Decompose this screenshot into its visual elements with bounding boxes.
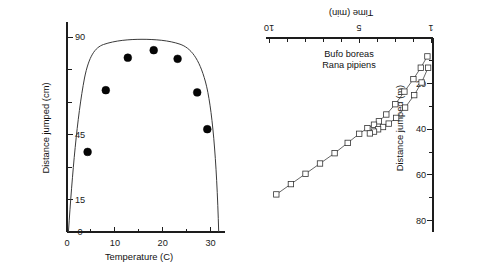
right-x-tick-labels: 0 10 20 30: [64, 238, 215, 248]
data-point-5: [174, 55, 182, 63]
right-x-axis-title: Temperature (C): [105, 251, 173, 262]
left-chart-svg: 1 5 10 Time (min) 20 40 60 80: [239, 0, 479, 268]
data-point-3: [124, 54, 132, 62]
right-y-tick-label-0: 0: [77, 227, 82, 237]
right-x-tick-label-0: 0: [64, 238, 69, 248]
data-point-7: [203, 125, 211, 133]
data-point-1: [84, 148, 92, 156]
left-chart-panel: 1 5 10 Time (min) 20 40 60 80: [239, 0, 479, 268]
figure-canvas: 1 5 10 Time (min) 20 40 60 80: [0, 0, 479, 268]
right-chart-svg: 0 10 20 30 Temperature (C) 0 15 45 90: [0, 0, 239, 268]
left-y-ticks: [427, 61, 434, 221]
series-bufo-boreas: [274, 54, 431, 197]
left-y-tick-label-40: 40: [416, 125, 426, 135]
right-y-ticks: [67, 37, 73, 232]
data-point-4: [150, 46, 158, 54]
left-y-tick-label-60: 60: [416, 170, 426, 180]
right-chart-panel: 0 10 20 30 Temperature (C) 0 15 45 90: [0, 0, 239, 268]
right-y-tick-label-15: 15: [75, 195, 85, 205]
right-x-tick-label-10: 10: [110, 238, 120, 248]
left-x-ticks: [269, 38, 431, 43]
data-point-6: [193, 88, 201, 96]
legend-entry-bufo-boreas: Bufo boreas: [324, 49, 374, 59]
legend-entry-rana-pipiens: Rana pipiens: [322, 60, 376, 70]
right-chart-points: [84, 46, 212, 156]
data-point-2: [102, 86, 110, 94]
right-y-tick-label-90: 90: [75, 32, 85, 42]
right-axes: [67, 22, 225, 232]
right-x-tick-label-30: 30: [205, 238, 215, 248]
right-y-axis-title: Distance jumped (cm): [40, 82, 51, 173]
left-x-tick-label-10: 10: [264, 23, 274, 33]
right-x-ticks: [67, 227, 211, 232]
left-x-tick-labels: 1 5 10: [264, 23, 434, 33]
left-x-axis-title: Time (min): [329, 8, 373, 19]
left-x-tick-label-1: 1: [428, 23, 433, 33]
left-chart-legend: Bufo boreas Rana pipiens: [322, 49, 376, 70]
left-x-tick-label-5: 5: [356, 23, 361, 33]
right-x-tick-label-20: 20: [158, 238, 168, 248]
left-y-tick-label-80: 80: [416, 216, 426, 226]
right-chart-fit-curve: [68, 39, 218, 232]
left-y-tick-labels: 20 40 60 80: [416, 79, 426, 226]
